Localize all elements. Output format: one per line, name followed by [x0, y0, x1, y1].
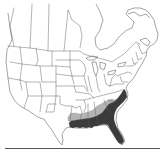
- state-border: [8, 78, 28, 108]
- state-border: [126, 64, 136, 66]
- state-border: [70, 51, 72, 76]
- province-border: [30, 4, 32, 48]
- province-border: [48, 4, 49, 51]
- state-border: [56, 86, 76, 92]
- great-lakes: [108, 70, 116, 75]
- state-border: [84, 90, 122, 100]
- state-border: [76, 92, 94, 98]
- state-border: [26, 82, 42, 112]
- state-border: [136, 52, 142, 60]
- state-border: [36, 48, 38, 66]
- state-border: [72, 64, 86, 76]
- state-border: [104, 74, 110, 86]
- range-map: [0, 0, 163, 154]
- state-border: [138, 44, 146, 54]
- state-border: [96, 76, 100, 92]
- state-border: [56, 96, 76, 108]
- state-border: [116, 72, 132, 76]
- state-border: [70, 60, 84, 64]
- state-border: [84, 76, 88, 90]
- state-border: [110, 84, 124, 86]
- state-border: [132, 58, 138, 64]
- state-border: [120, 76, 128, 82]
- bottom-rule: [5, 148, 160, 149]
- province-border: [64, 10, 82, 51]
- maritime-coast: [140, 38, 150, 46]
- state-border: [40, 66, 56, 82]
- maritime-coast: [128, 12, 150, 18]
- great-lakes: [100, 62, 106, 70]
- state-border: [56, 74, 74, 84]
- state-border: [76, 100, 86, 112]
- great-lakes: [92, 62, 98, 76]
- state-border: [20, 80, 22, 90]
- north-america-map: [0, 0, 163, 154]
- state-border: [88, 76, 92, 92]
- great-lakes: [118, 62, 126, 67]
- state-border: [74, 86, 88, 92]
- us-canada-border: [8, 42, 140, 62]
